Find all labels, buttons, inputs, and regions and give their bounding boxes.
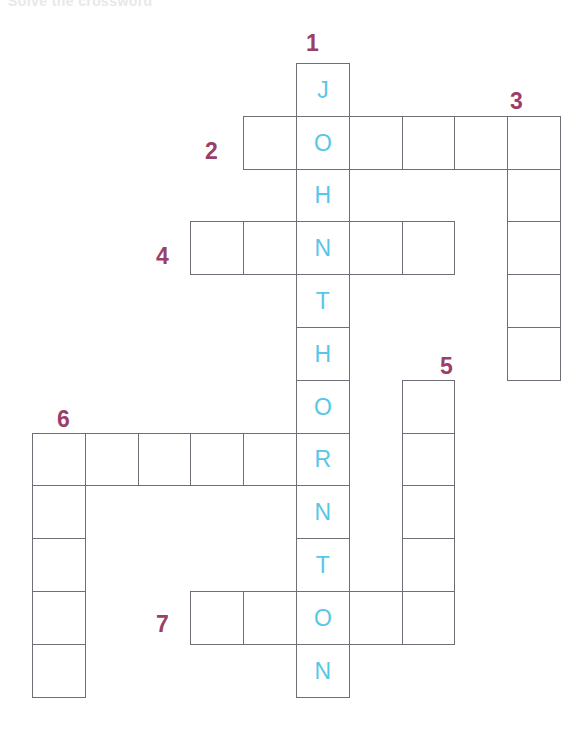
- clue-number-1: 1: [306, 32, 319, 55]
- clue-number-4: 4: [156, 245, 169, 268]
- clue-number-3: 3: [510, 90, 523, 113]
- clue-number-2: 2: [205, 140, 218, 163]
- clue-number-layer: 1234567: [0, 0, 581, 742]
- clue-number-7: 7: [156, 613, 169, 636]
- clue-number-6: 6: [57, 408, 70, 431]
- clue-number-5: 5: [440, 355, 453, 378]
- crossword-puzzle: Solve the crossword JOHNTHORNTON 1234567: [0, 0, 581, 742]
